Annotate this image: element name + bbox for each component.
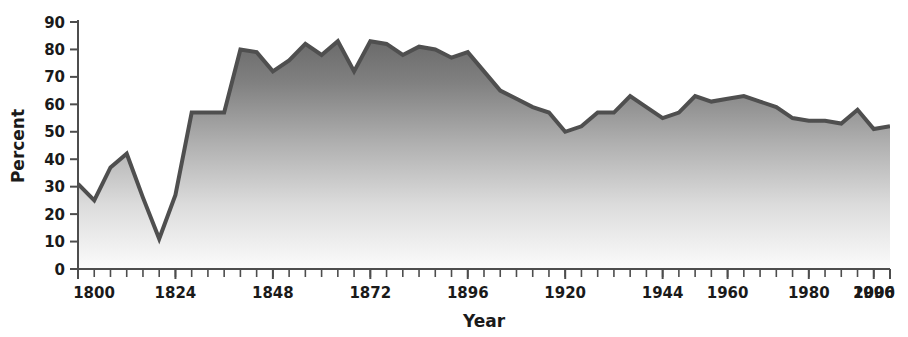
x-axis-tick-label: 1920 — [544, 284, 586, 302]
y-axis-title: Percent — [8, 109, 28, 183]
x-axis-ticks — [78, 269, 890, 279]
x-axis-title: Year — [462, 311, 506, 331]
y-axis-tick-label: 60 — [44, 96, 65, 114]
x-axis-tick-label: 1896 — [447, 284, 489, 302]
x-axis-tick-label: 1980 — [788, 284, 830, 302]
area-fill — [78, 41, 890, 269]
x-axis-tick-label: 1960 — [707, 284, 749, 302]
x-axis-tick-label: 2000 — [853, 284, 895, 302]
y-axis-tick-label: 20 — [44, 206, 65, 224]
y-axis-tick-label: 40 — [44, 151, 65, 169]
percent-by-year-area-chart: 0102030405060708090 18001824184818721896… — [0, 0, 908, 337]
y-axis-tick-label: 90 — [44, 14, 65, 32]
y-axis-tick-labels: 0102030405060708090 — [44, 14, 65, 279]
chart-canvas: 0102030405060708090 18001824184818721896… — [0, 0, 908, 337]
x-axis-tick-label: 1848 — [252, 284, 294, 302]
y-axis-tick-label: 30 — [44, 178, 65, 196]
y-axis-tick-label: 80 — [44, 41, 65, 59]
x-axis-tick-label: 1800 — [73, 284, 115, 302]
x-axis-tick-label: 1872 — [349, 284, 391, 302]
x-axis-tick-label: 1944 — [642, 284, 684, 302]
y-axis-tick-label: 0 — [55, 261, 65, 279]
x-axis-tick-labels: 1800182418481872189619201944196019801996… — [73, 284, 895, 302]
y-axis-tick-label: 70 — [44, 68, 65, 86]
y-axis-ticks — [70, 22, 78, 269]
x-axis-tick-label: 1824 — [155, 284, 197, 302]
y-axis-tick-label: 50 — [44, 123, 65, 141]
y-axis-tick-label: 10 — [44, 233, 65, 251]
